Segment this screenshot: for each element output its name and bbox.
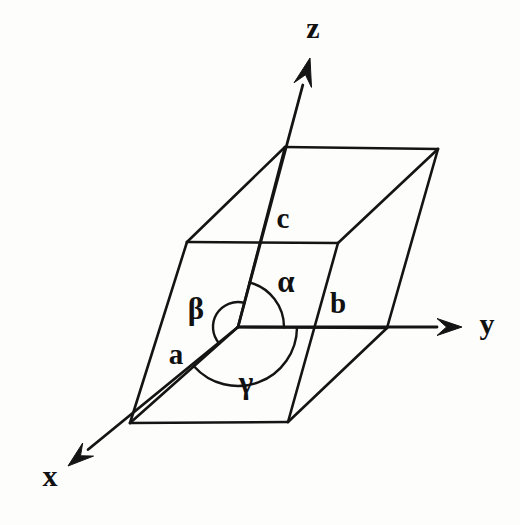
angle-label-gamma: γ (238, 365, 254, 400)
edge-label-c: c (277, 202, 290, 234)
z-axis-label: z (306, 11, 319, 44)
unit-cell-drawing: x y z a b c α β γ (0, 0, 520, 525)
coordinate-axes (68, 58, 462, 466)
unit-cell-figure: x y z a b c α β γ (0, 0, 520, 525)
edge-c-to-ac (187, 147, 285, 242)
edge-b-to-bc (387, 149, 438, 328)
edge-a-to-ab (130, 422, 288, 423)
x-axis-label: x (43, 459, 58, 492)
x-axis-line (88, 327, 238, 450)
edge-ab-to-b (288, 328, 387, 422)
edge-ab-to-abc (288, 243, 338, 422)
angle-label-beta: β (188, 291, 204, 326)
angle-labels: α β γ (188, 264, 295, 400)
y-axis-arrowhead-icon (437, 319, 462, 336)
edge-bc-to-c (285, 147, 438, 149)
angle-label-alpha: α (277, 264, 294, 299)
edge-a-to-ac (130, 242, 187, 423)
y-axis-label: y (480, 307, 495, 340)
edge-abc-to-bc (338, 149, 438, 243)
axis-labels: x y z (43, 11, 495, 492)
edge-label-a: a (169, 338, 184, 370)
edge-ac-to-abc (187, 242, 338, 243)
z-axis-arrowhead-icon (294, 58, 311, 87)
edge-label-b: b (330, 287, 346, 319)
